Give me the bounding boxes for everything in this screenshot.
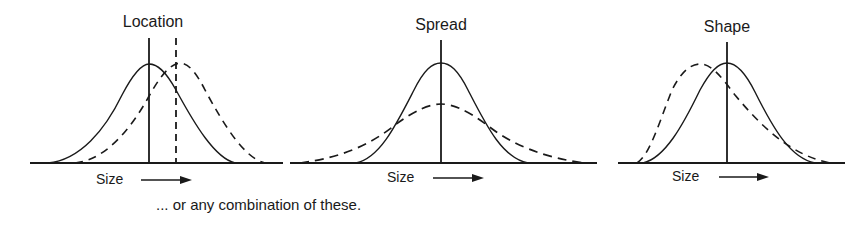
panel-title-location: Location	[123, 13, 184, 31]
panel-title-spread: Spread	[415, 16, 467, 34]
spread-dashed-curve	[300, 104, 585, 163]
panel-spread-graphic	[290, 40, 597, 163]
panel-shape-graphic	[618, 42, 845, 163]
location-dashed-curve	[75, 63, 265, 163]
spread-solid-curve	[356, 63, 528, 163]
shape-solid-curve	[643, 63, 815, 163]
shape-axis-label: Size	[672, 168, 699, 184]
diagram-caption: ... or any combination of these.	[156, 196, 361, 213]
location-solid-curve	[48, 64, 235, 163]
location-axis-label: Size	[96, 171, 123, 187]
spread-axis-label: Size	[387, 169, 414, 185]
panel-title-shape: Shape	[704, 18, 750, 36]
panel-location-graphic	[30, 38, 283, 163]
